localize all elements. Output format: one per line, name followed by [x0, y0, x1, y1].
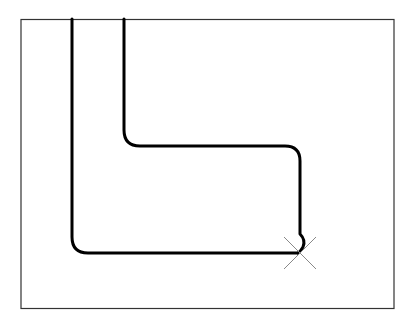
frame-border: [21, 20, 394, 309]
inner-path-line: [124, 19, 304, 253]
outer-path-line: [72, 19, 298, 253]
diagram-canvas: [0, 0, 408, 324]
